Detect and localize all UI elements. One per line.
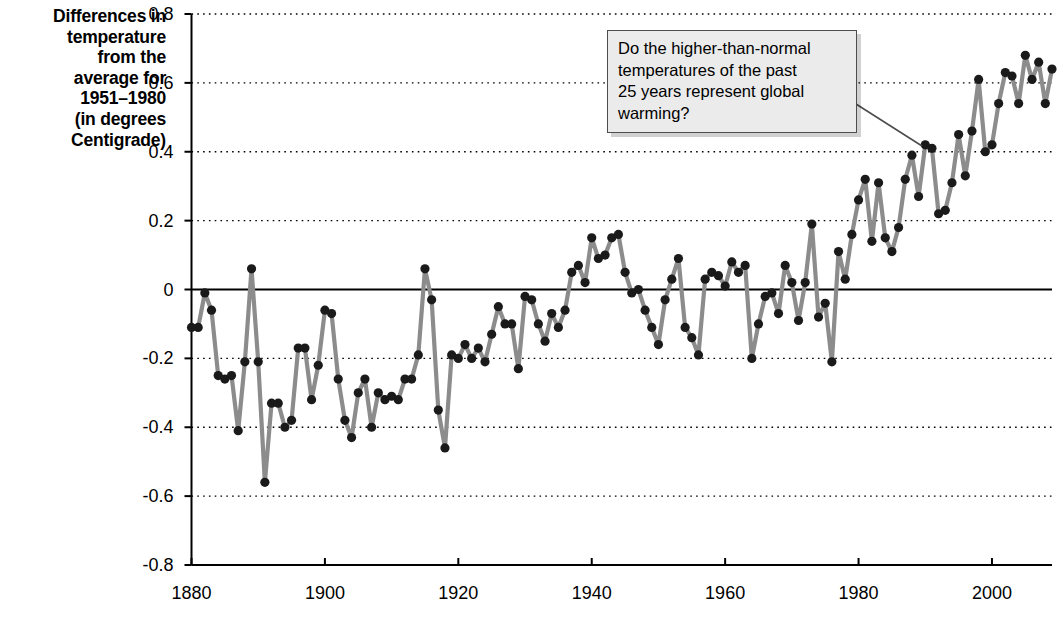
data-point: [754, 319, 763, 328]
data-point: [414, 350, 423, 359]
data-point: [954, 130, 963, 139]
data-point: [600, 250, 609, 259]
data-point: [354, 388, 363, 397]
data-point: [494, 302, 503, 311]
y-tick-label: 0.8: [120, 5, 174, 23]
data-point: [667, 275, 676, 284]
data-point: [634, 285, 643, 294]
x-tick-label: 1940: [557, 584, 627, 602]
callout-line-4: warming?: [618, 103, 847, 125]
data-point: [227, 371, 236, 380]
data-point: [767, 288, 776, 297]
data-point: [394, 395, 403, 404]
data-point: [814, 312, 823, 321]
data-point: [867, 237, 876, 246]
data-point: [1007, 71, 1016, 80]
data-point: [507, 319, 516, 328]
data-point: [194, 323, 203, 332]
data-point: [821, 299, 830, 308]
data-point: [580, 278, 589, 287]
data-point: [260, 478, 269, 487]
data-point: [947, 178, 956, 187]
y-tick-label: 0.4: [120, 143, 174, 161]
data-point: [440, 443, 449, 452]
data-point: [480, 357, 489, 366]
data-point: [374, 388, 383, 397]
data-point: [661, 295, 670, 304]
annotation-callout: Do the higher-than-normal temperatures o…: [607, 30, 857, 133]
data-point: [454, 354, 463, 363]
y-tick-label: -0.8: [120, 556, 174, 574]
data-point: [927, 144, 936, 153]
data-point: [620, 268, 629, 277]
data-point: [200, 288, 209, 297]
data-point: [874, 178, 883, 187]
data-point: [887, 247, 896, 256]
data-point: [547, 309, 556, 318]
x-tick-label: 1980: [824, 584, 894, 602]
data-point: [1021, 51, 1030, 60]
data-point: [614, 230, 623, 239]
data-point: [834, 247, 843, 256]
data-point: [247, 264, 256, 273]
data-point: [727, 257, 736, 266]
data-point: [854, 195, 863, 204]
data-point: [1041, 99, 1050, 108]
callout-line-3: 25 years represent global: [618, 81, 847, 103]
data-point: [654, 340, 663, 349]
data-point: [774, 309, 783, 318]
data-point: [827, 357, 836, 366]
y-tick-label: -0.4: [120, 418, 174, 436]
data-point: [347, 433, 356, 442]
data-point: [1047, 65, 1056, 74]
data-point: [367, 423, 376, 432]
callout-leader-line: [856, 104, 922, 146]
data-point: [360, 374, 369, 383]
x-tick-label: 1880: [157, 584, 227, 602]
data-point: [340, 416, 349, 425]
data-point: [587, 233, 596, 242]
data-point: [274, 399, 283, 408]
data-point: [961, 171, 970, 180]
data-point: [901, 175, 910, 184]
data-point: [974, 75, 983, 84]
y-tick-label: -0.6: [120, 487, 174, 505]
x-tick-label: 1900: [290, 584, 360, 602]
data-point: [994, 99, 1003, 108]
data-point: [327, 309, 336, 318]
data-point: [407, 374, 416, 383]
data-point: [721, 281, 730, 290]
data-point: [467, 354, 476, 363]
data-point: [714, 271, 723, 280]
data-point: [334, 374, 343, 383]
data-point: [314, 361, 323, 370]
x-tick-label: 1920: [423, 584, 493, 602]
y-tick-label: 0.6: [120, 74, 174, 92]
data-point: [460, 340, 469, 349]
data-point: [641, 306, 650, 315]
data-point: [794, 316, 803, 325]
data-point: [1027, 75, 1036, 84]
data-point: [427, 295, 436, 304]
data-point: [894, 223, 903, 232]
data-point: [967, 126, 976, 135]
data-point: [240, 357, 249, 366]
data-point: [674, 254, 683, 263]
x-tick-label: 2000: [957, 584, 1027, 602]
data-point: [941, 206, 950, 215]
data-point: [527, 295, 536, 304]
data-point: [787, 278, 796, 287]
data-point: [987, 140, 996, 149]
data-point: [534, 319, 543, 328]
data-point: [687, 333, 696, 342]
data-point: [1014, 99, 1023, 108]
data-point: [254, 357, 263, 366]
data-point: [287, 416, 296, 425]
data-point: [234, 426, 243, 435]
data-point: [914, 192, 923, 201]
data-point: [981, 147, 990, 156]
data-point: [907, 151, 916, 160]
data-point: [807, 219, 816, 228]
data-point: [514, 364, 523, 373]
data-point: [554, 323, 563, 332]
